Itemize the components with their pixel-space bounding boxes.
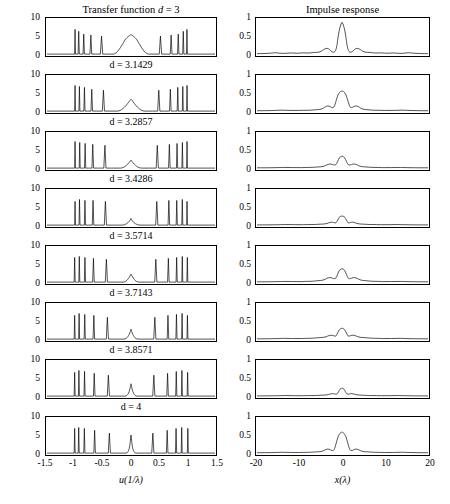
panel-impulse-8 (255, 416, 430, 456)
ytick-left-r3-10: 10 (8, 127, 40, 137)
ytick-left-r6-10: 10 (8, 298, 40, 308)
ytick-right-r1-1: 1 (221, 13, 251, 23)
ytick-right-r3-1: 1 (221, 127, 251, 137)
ytick-left-r7-0: 0 (8, 393, 40, 403)
panel-transfer-2 (45, 74, 217, 114)
ytick-left-r8-5: 5 (8, 431, 40, 441)
row-title-4: d = 3.5714 (45, 230, 217, 241)
xtick-right--10: -10 (285, 459, 313, 469)
ytick-left-r1-5: 5 (8, 32, 40, 42)
ytick-right-r8-1: 1 (221, 412, 251, 422)
row-title-6: d = 3.8571 (45, 344, 217, 355)
ytick-right-r5-0: 0 (221, 279, 251, 289)
ytick-right-r6-05: 0.5 (221, 317, 251, 327)
ytick-right-r8-05: 0.5 (221, 431, 251, 441)
panel-transfer-7 (45, 359, 217, 399)
panel-impulse-5 (255, 245, 430, 285)
ytick-left-r7-5: 5 (8, 374, 40, 384)
ytick-left-r1-10: 10 (8, 13, 40, 23)
ytick-right-r6-1: 1 (221, 298, 251, 308)
xtick-left-1: 1 (174, 459, 202, 469)
row-title-7: d = 4 (45, 401, 217, 412)
ytick-right-r5-05: 0.5 (221, 260, 251, 270)
panel-impulse-1 (255, 17, 430, 57)
ytick-right-r1-05: 0.5 (221, 32, 251, 42)
ytick-left-r1-0: 0 (8, 51, 40, 61)
ytick-left-r7-10: 10 (8, 355, 40, 365)
panel-impulse-6 (255, 302, 430, 342)
ytick-left-r4-10: 10 (8, 184, 40, 194)
ytick-left-r8-10: 10 (8, 412, 40, 422)
ytick-left-r6-5: 5 (8, 317, 40, 327)
ytick-right-r7-0: 0 (221, 393, 251, 403)
xtick-left-1.5: 1.5 (203, 459, 231, 469)
xtick-left-0: 0 (117, 459, 145, 469)
xtick-left--1.5: -1.5 (31, 459, 59, 469)
ytick-right-r6-0: 0 (221, 336, 251, 346)
ytick-left-r2-0: 0 (8, 108, 40, 118)
ytick-left-r3-5: 5 (8, 146, 40, 156)
panel-transfer-3 (45, 131, 217, 171)
ytick-right-r3-0: 0 (221, 165, 251, 175)
panel-transfer-6 (45, 302, 217, 342)
ytick-left-r2-10: 10 (8, 70, 40, 80)
row-title-3: d = 3.4286 (45, 173, 217, 184)
ytick-left-r5-0: 0 (8, 279, 40, 289)
ytick-right-r5-1: 1 (221, 241, 251, 251)
ytick-right-r3-05: 0.5 (221, 146, 251, 156)
panel-transfer-8 (45, 416, 217, 456)
xaxis-label-left: u(1/λ) (45, 474, 217, 485)
ytick-right-r2-0: 0 (221, 108, 251, 118)
ytick-left-r6-0: 0 (8, 336, 40, 346)
d-symbol: d (158, 4, 163, 15)
panel-impulse-2 (255, 74, 430, 114)
xtick-right-20: 20 (416, 459, 444, 469)
column-title-impulse: Impulse response (255, 4, 430, 15)
xtick-left-0.5: 0.5 (145, 459, 173, 469)
ytick-right-r2-1: 1 (221, 70, 251, 80)
figure-root: Transfer function d = 3 Impulse response… (0, 0, 450, 504)
xtick-right-0: 0 (329, 459, 357, 469)
ytick-left-r5-5: 5 (8, 260, 40, 270)
panel-transfer-1 (45, 17, 217, 57)
ytick-left-r3-0: 0 (8, 165, 40, 175)
xtick-left--1: -1 (59, 459, 87, 469)
ytick-right-r4-05: 0.5 (221, 203, 251, 213)
row-title-1: d = 3.1429 (45, 59, 217, 70)
ytick-right-r2-05: 0.5 (221, 89, 251, 99)
ytick-right-r1-0: 0 (221, 51, 251, 61)
xtick-left--0.5: -0.5 (88, 459, 116, 469)
xtick-right--20: -20 (242, 459, 270, 469)
ytick-right-r7-1: 1 (221, 355, 251, 365)
ytick-left-r4-5: 5 (8, 203, 40, 213)
panel-impulse-3 (255, 131, 430, 171)
panel-transfer-4 (45, 188, 217, 228)
xaxis-label-right: x(λ) (255, 474, 430, 485)
ytick-left-r4-0: 0 (8, 222, 40, 232)
column-title-transfer-text: Transfer function (82, 4, 155, 15)
xtick-right-10: 10 (372, 459, 400, 469)
ytick-left-r5-10: 10 (8, 241, 40, 251)
row-title-5: d = 3.7143 (45, 287, 217, 298)
panel-transfer-5 (45, 245, 217, 285)
ytick-right-r7-05: 0.5 (221, 374, 251, 384)
row-title-2: d = 3.2857 (45, 116, 217, 127)
column-title-transfer: Transfer function d = 3 (45, 4, 217, 15)
ytick-right-r4-1: 1 (221, 184, 251, 194)
panel-impulse-4 (255, 188, 430, 228)
ytick-left-r2-5: 5 (8, 89, 40, 99)
panel-impulse-7 (255, 359, 430, 399)
ytick-right-r4-0: 0 (221, 222, 251, 232)
